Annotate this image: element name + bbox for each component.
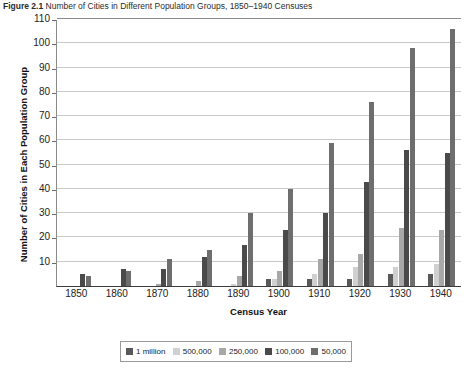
legend-swatch-icon — [311, 348, 318, 355]
bar — [237, 276, 242, 286]
bar — [242, 245, 247, 286]
figure-number: Figure 2.1 — [3, 1, 43, 11]
bar — [393, 267, 398, 286]
bar-group — [185, 20, 212, 286]
y-tick-label: 90 — [20, 62, 50, 73]
bar — [272, 279, 277, 286]
bar — [231, 284, 236, 286]
bar — [121, 269, 126, 286]
bar — [312, 274, 317, 286]
bar — [404, 150, 409, 286]
bar — [410, 48, 415, 286]
legend-label: 250,000 — [229, 347, 258, 356]
y-tick-mark — [52, 238, 56, 239]
y-tick-label: 20 — [20, 231, 50, 242]
bar — [318, 259, 323, 286]
bar — [445, 153, 450, 287]
x-tick-label: 1920 — [340, 288, 381, 299]
bar-group — [104, 20, 131, 286]
y-tick-label: 60 — [20, 134, 50, 145]
legend-item[interactable]: 1 million — [126, 347, 165, 356]
chart-legend: 1 million500,000250,000100,00050,000 — [120, 341, 352, 362]
legend-item[interactable]: 500,000 — [173, 347, 212, 356]
bar-group — [266, 20, 293, 286]
x-tick-label: 1930 — [380, 288, 421, 299]
bar-group — [145, 20, 172, 286]
bar — [202, 257, 207, 286]
bar — [323, 213, 328, 286]
y-tick-mark — [52, 69, 56, 70]
y-tick-label: 100 — [20, 37, 50, 48]
y-tick-label: 50 — [20, 159, 50, 170]
bar-group — [307, 20, 334, 286]
x-tick-label: 1850 — [56, 288, 97, 299]
bar — [307, 279, 312, 286]
figure-title: Number of Cities in Different Population… — [46, 1, 313, 11]
x-tick-label: 1870 — [137, 288, 178, 299]
legend-item[interactable]: 100,000 — [265, 347, 304, 356]
y-tick-mark — [52, 117, 56, 118]
figure-caption: Figure 2.1 Number of Cities in Different… — [3, 1, 312, 12]
x-axis-title: Census Year — [56, 306, 461, 317]
bar — [347, 279, 352, 286]
y-tick-label: 40 — [20, 183, 50, 194]
bar-group — [388, 20, 415, 286]
bar — [329, 143, 334, 286]
y-tick-mark — [52, 141, 56, 142]
x-tick-label: 1880 — [178, 288, 219, 299]
y-tick-mark — [52, 93, 56, 94]
bar — [161, 269, 166, 286]
legend-label: 100,000 — [275, 347, 304, 356]
y-tick-mark — [52, 190, 56, 191]
bar — [196, 281, 201, 286]
legend-item[interactable]: 50,000 — [311, 347, 345, 356]
y-tick-mark — [52, 44, 56, 45]
bar — [388, 274, 393, 286]
bar-group — [428, 20, 455, 286]
bar — [80, 274, 85, 286]
y-tick-label: 30 — [20, 207, 50, 218]
bar-chart: Number of Cities in Each Population Grou… — [0, 14, 467, 372]
x-tick-label: 1890 — [218, 288, 259, 299]
x-tick-label: 1900 — [259, 288, 300, 299]
bar — [156, 284, 161, 286]
y-tick-label: 70 — [20, 110, 50, 121]
bar — [167, 259, 172, 286]
legend-label: 1 million — [136, 347, 165, 356]
legend-swatch-icon — [173, 348, 180, 355]
bar — [353, 267, 358, 286]
bar — [283, 230, 288, 286]
y-tick-mark — [52, 166, 56, 167]
bar — [434, 264, 439, 286]
bar-group — [226, 20, 253, 286]
legend-label: 500,000 — [183, 347, 212, 356]
y-tick-mark — [52, 20, 56, 21]
x-tick-label: 1940 — [421, 288, 462, 299]
legend-swatch-icon — [219, 348, 226, 355]
legend-label: 50,000 — [321, 347, 345, 356]
bar — [86, 276, 91, 286]
legend-item[interactable]: 250,000 — [219, 347, 258, 356]
bar — [358, 254, 363, 286]
bar-group — [64, 20, 91, 286]
bar — [399, 228, 404, 286]
gridline — [57, 18, 461, 19]
y-tick-mark — [52, 263, 56, 264]
bar — [428, 274, 433, 286]
y-tick-label: 110 — [20, 13, 50, 24]
bar-group — [347, 20, 374, 286]
bar — [126, 271, 131, 286]
y-tick-label: 10 — [20, 256, 50, 267]
x-tick-label: 1860 — [97, 288, 138, 299]
legend-swatch-icon — [126, 348, 133, 355]
bar — [266, 279, 271, 286]
bar — [248, 213, 253, 286]
bar — [207, 250, 212, 286]
bar — [277, 271, 282, 286]
x-tick-label: 1910 — [299, 288, 340, 299]
bar — [439, 230, 444, 286]
bar — [450, 29, 455, 286]
legend-swatch-icon — [265, 348, 272, 355]
bar — [364, 182, 369, 286]
y-tick-label: 80 — [20, 86, 50, 97]
